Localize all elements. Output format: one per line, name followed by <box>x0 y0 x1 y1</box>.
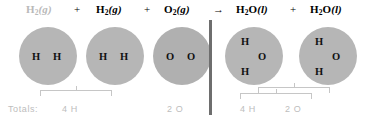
atom-h: H <box>53 52 61 63</box>
bracket-product-oxygen <box>258 87 330 93</box>
plus-operator-2: + <box>144 3 150 15</box>
atom-o: O <box>187 52 195 63</box>
atom-h: H <box>315 67 323 78</box>
totals-reactant-oxygen: 2 O <box>167 104 183 114</box>
equation-divider <box>209 20 212 115</box>
atom-h: H <box>120 52 128 63</box>
atom-o: O <box>332 52 340 63</box>
totals-product-hydrogen: 4 H <box>240 104 256 114</box>
formula-state: (g) <box>109 3 122 15</box>
totals-prefix: Totals: <box>8 104 38 114</box>
formula-oxygen: O2(g) <box>164 3 190 17</box>
atom-h: H <box>241 37 249 48</box>
formula-hydrogen-1: H2(g) <box>26 3 52 17</box>
formula-element-o: O <box>323 3 332 15</box>
formula-state: (g) <box>177 3 190 15</box>
oxygen-molecule: O O <box>153 27 211 85</box>
totals-product-oxygen: 2 O <box>285 104 301 114</box>
hydrogen-molecule-2: H H <box>86 27 144 85</box>
hydrogen-molecule-1: H H <box>19 27 77 85</box>
totals-reactant-hydrogen: 4 H <box>62 104 78 114</box>
bracket-reactant-hydrogen <box>40 90 112 96</box>
bracket-product-hydrogen <box>240 93 312 99</box>
formula-element: H <box>96 3 105 15</box>
arrow-operator: → <box>213 3 224 15</box>
formula-element: H <box>26 3 35 15</box>
water-molecule-1: H O H <box>225 27 283 85</box>
atom-o: O <box>166 52 174 63</box>
formula-water-2: H2O(l) <box>310 3 342 17</box>
water-molecule-2: H O H <box>299 27 357 85</box>
atom-h: H <box>315 37 323 48</box>
formula-state: (l) <box>257 3 268 15</box>
atom-h: H <box>241 67 249 78</box>
formula-water-1: H2O(l) <box>236 3 268 17</box>
plus-operator-3: + <box>290 3 296 15</box>
formula-element: H <box>236 3 245 15</box>
reaction-diagram: H2(g) + H2(g) + O2(g) → H2O(l) + H2O(l) … <box>0 0 368 123</box>
formula-element-o: O <box>249 3 258 15</box>
bracket-tick <box>76 86 77 91</box>
atom-h: H <box>32 52 40 63</box>
formula-hydrogen-2: H2(g) <box>96 3 122 17</box>
formula-element: H <box>310 3 319 15</box>
formula-element: O <box>164 3 173 15</box>
atom-h: H <box>99 52 107 63</box>
bracket-tick <box>294 83 295 88</box>
atom-o: O <box>258 52 266 63</box>
formula-state: (l) <box>331 3 342 15</box>
formula-state: (g) <box>39 3 52 15</box>
plus-operator-1: + <box>74 3 80 15</box>
